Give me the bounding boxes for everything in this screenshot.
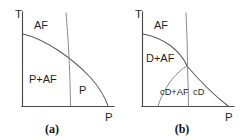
panel-b-region-af: AF: [154, 19, 168, 31]
panel-a-p-boundary-curve: [66, 13, 71, 106]
panel-b-x-axis-label: P: [225, 111, 233, 123]
panel-a-af-boundary-curve: [23, 34, 108, 106]
panel-b-region-cd-plus-af: cD+AF: [160, 87, 189, 97]
panel-a-region-p-plus-af: P+AF: [29, 73, 57, 85]
panel-b-y-axis-label: T: [135, 8, 142, 20]
panel-b-region-d-plus-af: D+AF: [146, 52, 175, 64]
panel-a-x-axis-label: P: [105, 111, 113, 123]
panel-b-caption: (b): [175, 122, 190, 136]
panel-b: T P AF D+AF cD+AF cD (b): [122, 0, 244, 140]
panel-b-cd-af-inner-arc: [158, 66, 188, 106]
panel-b-region-cd: cD: [193, 87, 205, 97]
panel-a-region-p: P: [79, 84, 86, 96]
panel-a: T P AF P+AF P (a): [0, 0, 122, 140]
panel-a-region-af: AF: [34, 19, 48, 31]
panel-a-caption: (a): [45, 122, 59, 136]
phase-diagram-figure: T P AF P+AF P (a) T P AF D+AF cD+AF cD (…: [0, 0, 244, 140]
panel-a-y-axis-label: T: [15, 8, 22, 20]
